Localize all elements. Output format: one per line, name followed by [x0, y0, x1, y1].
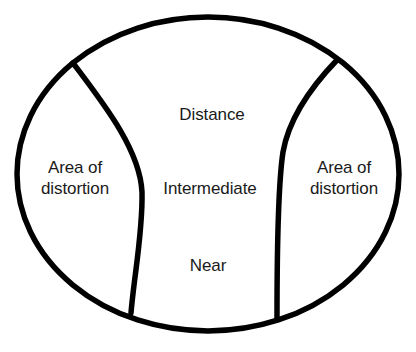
zone-label-distortion-right: Area of distortion: [310, 157, 378, 199]
lens-zones-diagram: Distance Intermediate Near Area of disto…: [0, 0, 416, 352]
zone-label-distance: Distance: [179, 104, 244, 125]
zone-label-distortion-left: Area of distortion: [41, 157, 109, 199]
zone-label-near: Near: [190, 255, 226, 276]
zone-label-intermediate: Intermediate: [163, 178, 256, 199]
